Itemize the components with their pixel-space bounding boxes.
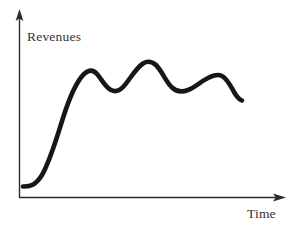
y-axis-label: Revenues [27, 29, 81, 44]
chart-figure: Revenues Time [0, 0, 297, 229]
revenue-curve [23, 62, 242, 187]
revenues-over-time-chart: Revenues Time [0, 0, 297, 229]
x-axis-label: Time [247, 206, 276, 221]
